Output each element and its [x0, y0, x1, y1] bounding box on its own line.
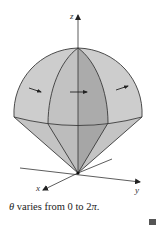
origin-point — [76, 171, 79, 174]
cone-sphere-diagram: z x y — [0, 0, 156, 225]
end-of-example-marker — [149, 219, 156, 225]
diagram-svg — [0, 0, 156, 225]
x-axis — [43, 173, 78, 190]
z-axis-label: z — [70, 12, 74, 21]
caption-text: varies from 0 to 2 — [14, 201, 91, 212]
y-axis-label: y — [135, 186, 139, 195]
caption-end: . — [97, 201, 100, 212]
figure-caption: θ varies from 0 to 2π. — [9, 202, 99, 213]
x-axis-label: x — [36, 184, 40, 193]
